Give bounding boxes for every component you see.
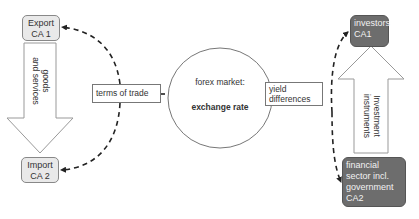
connector-terms-to-export [62, 27, 120, 84]
import-node: Import CA 2 [21, 157, 59, 183]
terms-of-trade-label: terms of trade [92, 84, 161, 103]
forex-market-title: forex market: [168, 77, 272, 87]
forex-market-circle [168, 48, 272, 148]
investors-label: investors [354, 18, 388, 29]
financial-sector-node: financial sector incl. government CA2 [342, 157, 406, 207]
connector-yield-to-financial [332, 112, 341, 182]
yield-differences-label: yield differences [265, 82, 323, 106]
import-account: CA 2 [22, 171, 58, 182]
goods-flow-label: goods and services [29, 47, 51, 115]
export-node: Export CA 1 [22, 15, 60, 41]
investment-flow-label: Investment instruments [360, 82, 382, 150]
export-account: CA 1 [23, 29, 59, 40]
export-label: Export [23, 18, 59, 29]
connector-terms-to-import [61, 103, 120, 170]
exchange-rate-label: exchange rate [168, 102, 272, 112]
investors-node: investors CA1 [350, 15, 389, 47]
import-label: Import [22, 160, 58, 171]
investors-account: CA1 [354, 29, 388, 40]
financial-account: CA2 [346, 193, 405, 204]
